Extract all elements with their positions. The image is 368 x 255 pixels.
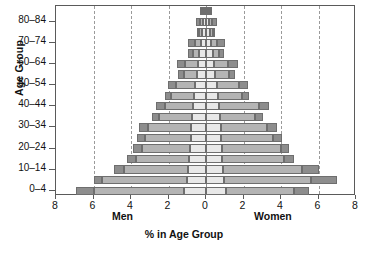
bar-segment-women-0-4-outer [294,187,309,195]
bar-segment-women-35-39-outer [255,113,263,121]
bar-segment-women-60-64-outer [228,60,238,68]
x-axis-title: % in Age Group [0,228,368,240]
bar-segment-women-10-14-inner [206,165,223,173]
y-tick-label-40-44: 40–44 [0,98,46,109]
bar-segment-men-75-79-middle [199,28,202,36]
bar-segment-men-60-64-outer [177,60,185,68]
bar-row-55-59 [56,70,354,78]
bar-segment-men-70-74-outer [188,39,195,47]
bar-segment-women-50-54-outer [239,81,248,89]
bar-row-85+ [56,7,354,15]
y-tick [49,148,55,149]
bar-segment-men-40-44-middle [165,102,193,110]
bar-row-50-54 [56,81,354,89]
bar-segment-men-35-39-middle [159,113,192,121]
bar-row-45-49 [56,92,354,100]
bar-segment-men-5-9-outer [94,176,102,184]
bar-segment-women-20-24-outer [281,144,289,152]
bar-segment-men-30-34-middle [148,123,191,131]
bar-segment-men-35-39-inner [192,113,206,121]
bar-segment-men-40-44-outer [156,102,164,110]
bar-segment-women-35-39-inner [206,113,220,121]
bar-segment-women-20-24-inner [206,144,222,152]
bar-segment-women-5-9-outer [311,176,337,184]
bar-segment-women-0-4-middle [226,187,294,195]
bar-segment-men-10-14-inner [188,165,206,173]
y-tick [49,63,55,64]
y-tick [49,169,55,170]
x-tick-label-6-1: 6 [81,199,105,211]
bar-segment-men-35-39-outer [152,113,160,121]
bar-segment-women-75-79-outer [213,28,215,36]
bar-segment-women-45-49-inner [206,92,218,100]
bar-segment-men-0-4-inner [184,187,206,195]
bar-segment-men-10-14-middle [124,165,188,173]
bar-segment-women-65-69-outer [219,49,224,57]
bar-segment-men-25-29-outer [137,134,145,142]
bar-segment-women-85+-outer [210,7,212,15]
y-tick-label-70-74: 70–74 [0,35,46,46]
bar-segment-women-30-34-middle [221,123,267,131]
bar-segment-men-80-84-middle [200,18,203,26]
bar-segment-men-55-59-outer [178,70,184,78]
y-tick-label-30-34: 30–34 [0,119,46,130]
bar-segment-women-15-19-middle [222,155,284,163]
bar-segment-men-15-19-outer [127,155,135,163]
bar-row-15-19 [56,155,354,163]
bar-segment-men-30-34-inner [191,123,206,131]
y-tick-label-10-14: 10–14 [0,162,46,173]
y-tick-label-20-24: 20–24 [0,141,46,152]
women-label: Women [254,210,292,222]
bar-segment-women-10-14-outer [302,165,320,173]
bar-segment-women-30-34-inner [206,123,221,131]
bar-segment-women-50-54-inner [206,81,217,89]
bar-segment-men-25-29-inner [191,134,206,142]
bar-segment-men-25-29-middle [145,134,191,142]
bar-row-65-69 [56,49,354,57]
bar-segment-men-5-9-middle [102,176,187,184]
y-tick [49,190,55,191]
bar-segment-women-40-44-middle [219,102,258,110]
bar-segment-women-55-59-inner [206,70,215,78]
bar-segment-women-5-9-middle [224,176,311,184]
bar-segment-men-65-69-outer [188,49,193,57]
bar-segment-women-55-59-outer [229,70,235,78]
bar-segment-women-45-49-outer [242,92,250,100]
bar-segment-men-15-19-middle [136,155,189,163]
bar-segment-women-25-29-inner [206,134,221,142]
bar-segment-women-40-44-outer [259,102,269,110]
bar-segment-men-40-44-inner [193,102,206,110]
y-tick [49,105,55,106]
y-tick-label-80-84: 80–84 [0,14,46,25]
bar-segment-men-20-24-inner [190,144,206,152]
plot-area [55,5,355,195]
bar-segment-women-40-44-inner [206,102,219,110]
bar-segment-women-15-19-inner [206,155,222,163]
y-tick-label-0-4: 0–4 [0,183,46,194]
bar-segment-men-50-54-inner [195,81,206,89]
bar-segment-men-60-64-inner [198,60,206,68]
bar-row-25-29 [56,134,354,142]
bar-segment-women-25-29-outer [273,134,282,142]
bar-segment-women-10-14-middle [223,165,302,173]
bar-segment-women-50-54-middle [217,81,239,89]
bar-segment-women-45-49-middle [218,92,241,100]
bar-segment-men-20-24-outer [133,144,142,152]
x-tick-label-2-5: 2 [231,199,255,211]
bar-row-60-64 [56,60,354,68]
bar-segment-men-55-59-inner [197,70,206,78]
y-tick-label-60-64: 60–64 [0,56,46,67]
bar-segment-women-35-39-middle [220,113,255,121]
bar-segment-men-85+-middle [202,7,204,15]
bar-segment-women-15-19-outer [284,155,294,163]
bar-segment-men-50-54-outer [168,81,176,89]
y-tick-label-50-54: 50–54 [0,77,46,88]
bar-row-75-79 [56,28,354,36]
bar-segment-men-0-4-middle [94,187,185,195]
bar-segment-women-25-29-middle [221,134,273,142]
x-tick-label-8-0: 8 [43,199,67,211]
bar-segment-men-75-79-outer [197,28,199,36]
x-tick-label-8-8: 8 [343,199,367,211]
bar-row-5-9 [56,176,354,184]
bar-segment-women-60-64-inner [206,60,214,68]
